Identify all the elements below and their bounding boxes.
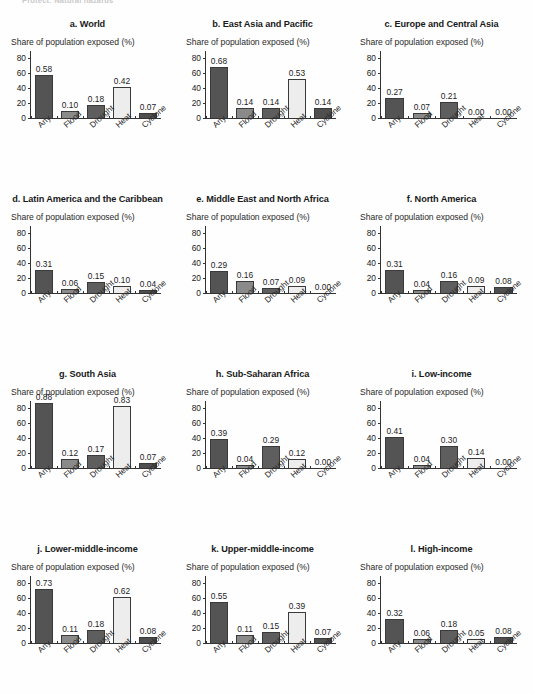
- y-tick-label: 80: [17, 404, 26, 412]
- bar-slot-any[interactable]: 0.55: [206, 576, 232, 643]
- bar-heat[interactable]: [113, 406, 131, 468]
- x-axis-labels: AnyFloodDroughtHeatCyclone: [206, 120, 336, 156]
- bar-slot-heat[interactable]: 0.00: [463, 51, 490, 118]
- x-tick-mark: [83, 116, 84, 119]
- y-tick-label: 40: [17, 84, 26, 92]
- bar-value-label: 0.14: [468, 448, 484, 457]
- x-tick-mark: [135, 116, 136, 119]
- bar-slot-any[interactable]: 0.32: [381, 576, 408, 643]
- x-tick-mark: [258, 291, 259, 294]
- bar-value-label: 0.39: [211, 429, 227, 438]
- y-tick-label: 60: [367, 244, 376, 252]
- x-tick-mark: [463, 116, 464, 119]
- bar-value-label: 0.15: [263, 622, 279, 631]
- y-axis-label: Share of population exposed (%): [186, 37, 350, 47]
- bar-slot-any[interactable]: 0.73: [31, 576, 57, 643]
- x-tick-mark: [490, 641, 491, 644]
- y-tick-label: 20: [17, 449, 26, 457]
- y-tick-label: 0: [371, 289, 376, 297]
- bar-value-label: 0.18: [88, 620, 104, 629]
- bar-slot-flood[interactable]: 0.11: [57, 576, 83, 643]
- y-tick-label: 40: [192, 609, 201, 617]
- bar-slot-flood[interactable]: 0.10: [57, 51, 83, 118]
- x-tick-mark: [408, 641, 409, 644]
- y-axis: 020406080: [11, 226, 28, 294]
- bar-slot-flood[interactable]: 0.07: [408, 51, 435, 118]
- y-axis: 020406080: [186, 576, 203, 644]
- bar-slot-flood[interactable]: 0.04: [408, 401, 435, 468]
- plot-area: 0204060800.730.110.180.620.08AnyFloodDro…: [11, 576, 163, 644]
- bar-any[interactable]: [210, 67, 228, 118]
- x-tick-mark: [31, 291, 32, 294]
- y-tick-label: 0: [196, 114, 201, 122]
- bar-value-label: 0.39: [289, 602, 305, 611]
- x-tick-mark: [435, 641, 436, 644]
- y-axis: 020406080: [186, 226, 203, 294]
- y-tick-label: 0: [196, 464, 201, 472]
- bar-value-label: 0.29: [263, 436, 279, 445]
- bar-slot-any[interactable]: 0.58: [31, 51, 57, 118]
- bar-any[interactable]: [35, 403, 53, 469]
- bar-any[interactable]: [35, 75, 53, 118]
- panel-title: l. High-income: [350, 544, 533, 554]
- x-axis-labels: AnyFloodDroughtHeatCyclone: [206, 295, 336, 331]
- x-tick-mark: [258, 641, 259, 644]
- y-axis-label: Share of population exposed (%): [11, 37, 175, 47]
- y-tick-label: 0: [21, 464, 26, 472]
- y-axis-label: Share of population exposed (%): [11, 562, 175, 572]
- bar-any[interactable]: [35, 589, 53, 643]
- y-axis: 020406080: [361, 576, 378, 644]
- x-tick-mark: [408, 466, 409, 469]
- x-tick-mark: [135, 641, 136, 644]
- chart-panel-b: b. East Asia and PacificShare of populat…: [175, 8, 350, 183]
- bar-slot-flood[interactable]: 0.04: [408, 226, 435, 293]
- y-tick-label: 40: [367, 434, 376, 442]
- bar-slot-any[interactable]: 0.31: [381, 226, 408, 293]
- bar-slot-any[interactable]: 0.29: [206, 226, 232, 293]
- x-tick-mark: [381, 466, 382, 469]
- y-tick-label: 20: [367, 624, 376, 632]
- bar-slot-flood[interactable]: 0.16: [232, 226, 258, 293]
- bar-slot-heat[interactable]: 0.14: [463, 401, 490, 468]
- bar-slot-flood[interactable]: 0.12: [57, 401, 83, 468]
- bar-slot-flood[interactable]: 0.04: [232, 401, 258, 468]
- y-tick-label: 60: [192, 594, 201, 602]
- x-tick-mark: [109, 291, 110, 294]
- bar-slot-any[interactable]: 0.31: [31, 226, 57, 293]
- bar-slot-any[interactable]: 0.41: [381, 401, 408, 468]
- bar-slot-heat[interactable]: 0.05: [463, 576, 490, 643]
- bar-value-label: 0.55: [211, 592, 227, 601]
- x-tick-mark: [310, 466, 311, 469]
- bar-any[interactable]: [210, 602, 228, 643]
- chart-panel-c: c. Europe and Central AsiaShare of popul…: [350, 8, 533, 183]
- x-tick-mark: [83, 641, 84, 644]
- bar-series: 0.390.040.290.120.00: [206, 401, 336, 468]
- bar-value-label: 0.27: [386, 88, 402, 97]
- bar-series: 0.730.110.180.620.08: [31, 576, 161, 643]
- bar-slot-flood[interactable]: 0.06: [57, 226, 83, 293]
- bar-slot-flood[interactable]: 0.14: [232, 51, 258, 118]
- bar-slot-flood[interactable]: 0.06: [408, 576, 435, 643]
- x-axis-labels: AnyFloodDroughtHeatCyclone: [206, 645, 336, 681]
- bar-any[interactable]: [210, 439, 228, 468]
- y-tick-label: 80: [17, 229, 26, 237]
- bar-heat[interactable]: [113, 597, 131, 643]
- plot-area: 0204060800.580.100.180.420.07AnyFloodDro…: [11, 51, 163, 119]
- bar-slot-heat[interactable]: 0.09: [463, 226, 490, 293]
- x-tick-mark: [490, 291, 491, 294]
- bar-slot-flood[interactable]: 0.11: [232, 576, 258, 643]
- x-tick-mark: [232, 466, 233, 469]
- bar-slot-any[interactable]: 0.68: [206, 51, 232, 118]
- bar-slot-any[interactable]: 0.27: [381, 51, 408, 118]
- bar-slot-any[interactable]: 0.39: [206, 401, 232, 468]
- x-tick-mark: [490, 466, 491, 469]
- bar-value-label: 0.12: [289, 449, 305, 458]
- y-tick-label: 60: [367, 594, 376, 602]
- x-tick-mark: [31, 466, 32, 469]
- bar-slot-any[interactable]: 0.88: [31, 401, 57, 468]
- y-axis: 020406080: [186, 51, 203, 119]
- y-tick-label: 20: [367, 99, 376, 107]
- chart-panel-f: f. North AmericaShare of population expo…: [350, 183, 533, 358]
- x-tick-mark: [310, 116, 311, 119]
- y-axis: 020406080: [11, 51, 28, 119]
